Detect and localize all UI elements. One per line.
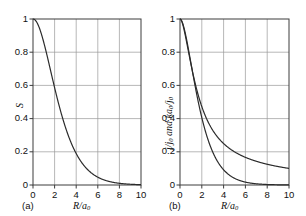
panel-a-ytick-08: 0.8 — [2, 47, 28, 57]
panel-b-ylabel-sub0b: 0 — [167, 106, 174, 109]
panel-a-ytick-0: 0 — [2, 180, 28, 190]
panel-b-tag: (b) — [169, 200, 181, 211]
panel-a-ytick-04: 0.4 — [2, 113, 28, 123]
panel-a-y-axis-label-text: S — [14, 103, 25, 108]
panel-b-ylabel-sub0c: 0 — [167, 97, 174, 100]
y-ticks — [30, 19, 34, 185]
panel-a-xtick-8: 8 — [109, 190, 129, 200]
panel-a-xlabel-sub: 0 — [87, 204, 90, 211]
panel-a-ytick-1: 1 — [2, 14, 28, 24]
figure-canvas: 1 0.8 0.6 0.4 0.2 0 0 2 4 6 8 10 S R/a0 … — [0, 0, 306, 216]
panel-b-x-axis-label: R/a0 — [221, 200, 238, 211]
panel-a-xtick-10: 10 — [131, 190, 151, 200]
panel-a-x-axis-label: R/a0 — [73, 200, 90, 211]
panel-b-plot — [153, 0, 306, 216]
panel-a-xlabel-num: R — [73, 200, 79, 211]
panel-a-y-axis-label: S — [14, 103, 25, 108]
panel-b-ylabel-j: j — [163, 147, 174, 150]
panel-b-ylabel-sub0: 0 — [167, 138, 174, 141]
panel-b-y-axis-label: j/j0 and ka0/j0 — [163, 97, 174, 150]
panel-a-ytick-06: 0.6 — [2, 80, 28, 90]
panel-b-ytick-1: 1 — [149, 14, 175, 24]
panel-b-xtick-6: 6 — [235, 190, 255, 200]
x-ticks — [33, 185, 141, 189]
panel-a-xtick-2: 2 — [45, 190, 65, 200]
panel-b-xtick-4: 4 — [214, 190, 234, 200]
panel-b-ylabel-ka: ka — [163, 109, 174, 118]
panel-b-xlabel-num: R — [221, 200, 227, 211]
panel-a-tag: (a) — [22, 200, 34, 211]
panel-a-ytick-02: 0.2 — [2, 146, 28, 156]
x-ticks — [180, 185, 289, 189]
panel-a-xtick-4: 4 — [66, 190, 86, 200]
panel-b-xlabel-sub: 0 — [235, 204, 238, 211]
panel-b-xtick-10: 10 — [279, 190, 299, 200]
panel-b-xtick-2: 2 — [192, 190, 212, 200]
panel-a-xtick-6: 6 — [88, 190, 108, 200]
panel-b-ytick-0: 0 — [149, 180, 175, 190]
panel-b-xtick-8: 8 — [257, 190, 277, 200]
panel-b: 1 0.8 0.6 0.4 0.2 0 0 2 4 6 8 10 j/j0 an… — [153, 0, 306, 216]
panel-b-ylabel-and: and — [163, 118, 174, 138]
panel-b-ytick-06: 0.6 — [149, 80, 175, 90]
panel-b-ylabel-slashj: /j — [163, 142, 174, 148]
panel-b-xtick-0: 0 — [170, 190, 190, 200]
panel-a-xtick-0: 0 — [23, 190, 43, 200]
panel-b-ylabel-slashj2: /j — [163, 100, 174, 106]
y-ticks — [177, 19, 181, 185]
panel-a: 1 0.8 0.6 0.4 0.2 0 0 2 4 6 8 10 S R/a0 … — [0, 0, 153, 216]
panel-b-ytick-08: 0.8 — [149, 47, 175, 57]
